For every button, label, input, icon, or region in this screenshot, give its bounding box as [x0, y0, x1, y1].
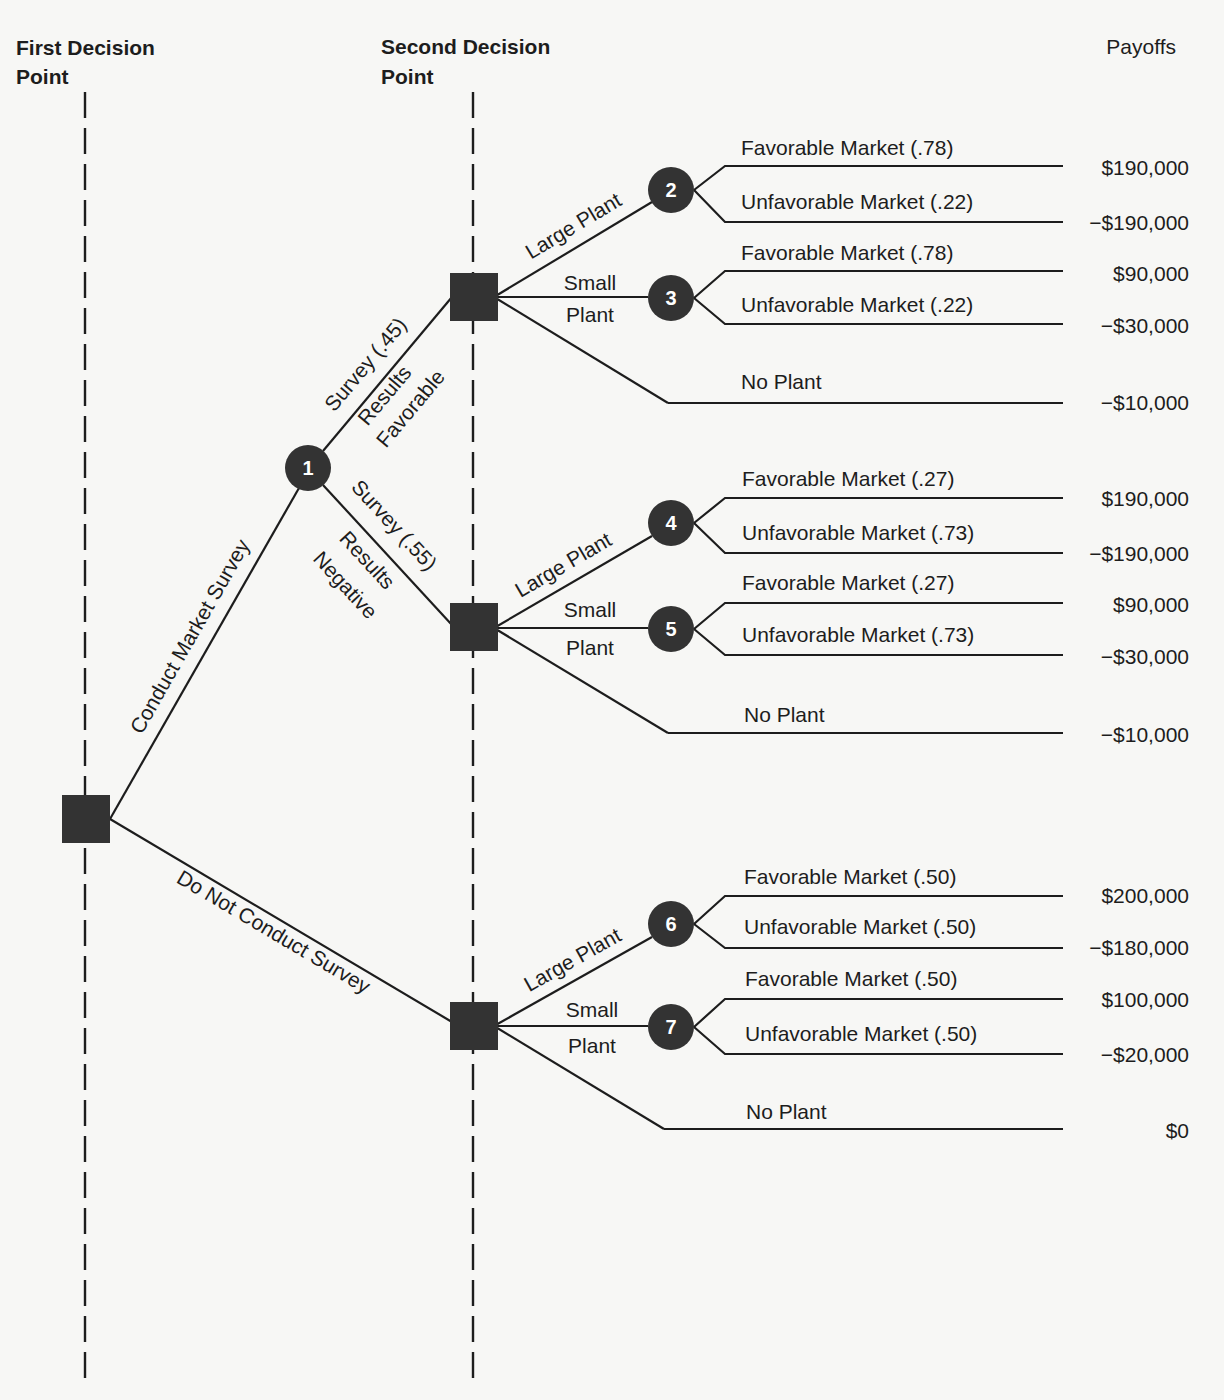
- payoff-value: $200,000: [1101, 884, 1189, 907]
- payoff-value: −$30,000: [1101, 645, 1189, 668]
- outcome-branch: No Plant−$10,000: [668, 370, 1189, 414]
- payoff-value: −$30,000: [1101, 314, 1189, 337]
- outcome-label: Favorable Market (.50): [745, 967, 957, 990]
- chance-node-number: 5: [665, 618, 676, 640]
- outcome-branch: Unfavorable Market (.73)−$190,000: [694, 521, 1189, 565]
- payoff-value: $0: [1166, 1119, 1189, 1142]
- chance-node: 1: [285, 445, 331, 491]
- chance-node-number: 4: [665, 512, 677, 534]
- decision-tree-diagram: First Decision Point Second Decision Poi…: [0, 0, 1224, 1400]
- outcome-line: [694, 166, 1063, 190]
- outcome-label: Unfavorable Market (.50): [745, 1022, 977, 1045]
- column-headers: First Decision Point Second Decision Poi…: [16, 35, 1176, 88]
- chance-node-number: 7: [665, 1016, 676, 1038]
- decision-node-square-icon: [62, 795, 110, 843]
- chance-node-number: 6: [665, 913, 676, 935]
- decision-node-square-icon: [450, 1002, 498, 1050]
- outcome-label: No Plant: [744, 703, 825, 726]
- tree-edge: [110, 488, 299, 819]
- first-decision-header-line1: First Decision: [16, 36, 155, 59]
- chance-node: 6: [648, 901, 694, 947]
- outcome-label: Favorable Market (.27): [742, 571, 954, 594]
- branch-label: Large Plant: [520, 923, 625, 996]
- outcome-branch: No Plant−$10,000: [668, 703, 1189, 746]
- small-plant-label: SmallPlant: [564, 271, 617, 326]
- outcome-branch: Favorable Market (.50)$100,000: [694, 967, 1189, 1027]
- outcome-label: Unfavorable Market (.50): [744, 915, 976, 938]
- small-plant-label-line1: Small: [564, 271, 617, 294]
- outcome-label: Unfavorable Market (.22): [741, 293, 973, 316]
- outcome-label: No Plant: [741, 370, 822, 393]
- branch-label: Large Plant: [521, 188, 625, 263]
- payoff-value: $100,000: [1101, 988, 1189, 1011]
- outcome-label: Favorable Market (.78): [741, 136, 953, 159]
- branch-label: Do Not Conduct Survey: [173, 865, 375, 998]
- outcome-branch: Unfavorable Market (.22)−$190,000: [694, 190, 1189, 234]
- payoff-value: $90,000: [1113, 593, 1189, 616]
- outcome-label: Favorable Market (.78): [741, 241, 953, 264]
- payoff-value: $190,000: [1101, 156, 1189, 179]
- tree-edge: [110, 819, 452, 1022]
- chance-node: 5: [648, 606, 694, 652]
- small-plant-label-line1: Small: [566, 998, 619, 1021]
- outcome-branch: Favorable Market (.78)$90,000: [694, 241, 1189, 298]
- small-plant-label: SmallPlant: [566, 998, 619, 1057]
- branch-label: Large Plant: [511, 527, 616, 601]
- payoff-value: −$190,000: [1089, 211, 1189, 234]
- chance-node-number: 2: [665, 179, 676, 201]
- outcome-branch: Unfavorable Market (.73)−$30,000: [694, 623, 1189, 668]
- outcome-label: Favorable Market (.27): [742, 467, 954, 490]
- decision-node-square-icon: [450, 603, 498, 651]
- chance-node: 7: [648, 1004, 694, 1050]
- payoff-value: −$10,000: [1101, 723, 1189, 746]
- outcome-branches: Favorable Market (.78)$190,000Unfavorabl…: [664, 136, 1189, 1142]
- outcome-branch: Unfavorable Market (.50)−$180,000: [694, 915, 1189, 959]
- chance-node: 4: [648, 500, 694, 546]
- chance-node-number: 3: [665, 287, 676, 309]
- small-plant-label-line1: Small: [564, 598, 617, 621]
- chance-node: 2: [648, 167, 694, 213]
- second-decision-header-line1: Second Decision: [381, 35, 550, 58]
- payoffs-header: Payoffs: [1106, 35, 1176, 58]
- outcome-label: No Plant: [746, 1100, 827, 1123]
- outcome-branch: Favorable Market (.27)$90,000: [694, 571, 1189, 629]
- payoff-value: −$180,000: [1089, 936, 1189, 959]
- branch-labels: Conduct Market SurveyDo Not Conduct Surv…: [125, 188, 625, 998]
- outcome-branch: Unfavorable Market (.22)−$30,000: [694, 293, 1189, 337]
- decision-node-square-icon: [450, 273, 498, 321]
- outcome-branch: Favorable Market (.78)$190,000: [694, 136, 1189, 190]
- small-plant-label-line2: Plant: [568, 1034, 616, 1057]
- small-plant-label-line2: Plant: [566, 636, 614, 659]
- branch-label: Conduct Market Survey: [125, 535, 254, 737]
- outcome-label: Favorable Market (.50): [744, 865, 956, 888]
- outcome-label: Unfavorable Market (.73): [742, 623, 974, 646]
- outcome-line: [694, 498, 1063, 523]
- first-decision-header-line2: Point: [16, 65, 69, 88]
- small-plant-label-line2: Plant: [566, 303, 614, 326]
- payoff-value: $190,000: [1101, 487, 1189, 510]
- chance-node: 3: [648, 275, 694, 321]
- outcome-branch: No Plant$0: [664, 1100, 1189, 1142]
- outcome-branch: Unfavorable Market (.50)−$20,000: [694, 1022, 1189, 1066]
- payoff-value: −$10,000: [1101, 391, 1189, 414]
- payoff-value: $90,000: [1113, 262, 1189, 285]
- outcome-branch: Favorable Market (.27)$190,000: [694, 467, 1189, 523]
- payoff-value: −$20,000: [1101, 1043, 1189, 1066]
- outcome-label: Unfavorable Market (.22): [741, 190, 973, 213]
- chance-node-number: 1: [302, 457, 313, 479]
- outcome-label: Unfavorable Market (.73): [742, 521, 974, 544]
- payoff-value: −$190,000: [1089, 542, 1189, 565]
- second-decision-header-line2: Point: [381, 65, 434, 88]
